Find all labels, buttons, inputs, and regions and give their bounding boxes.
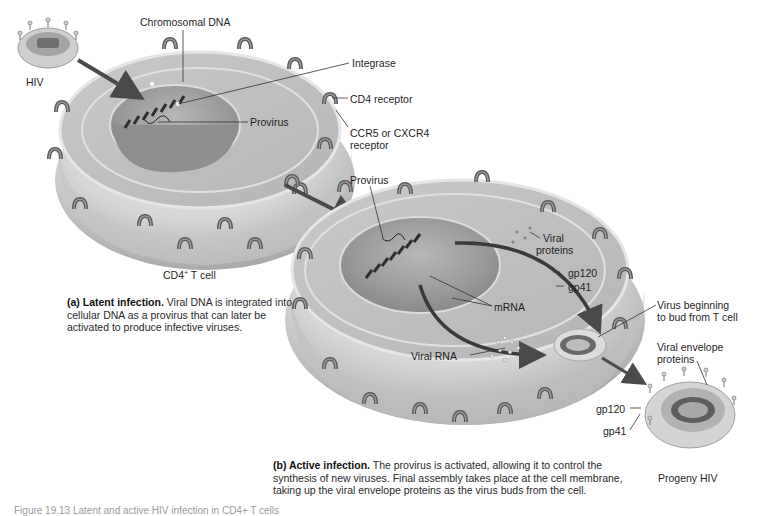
- label-viral-proteins-1: Viral: [543, 232, 564, 244]
- progeny-hiv-virion: [645, 367, 736, 448]
- label-viral-proteins-2: proteins: [536, 244, 573, 256]
- caption-latent-infection: (a) Latent infection. Viral DNA is integ…: [67, 296, 297, 334]
- label-virus-budding-2: to bud from T cell: [657, 311, 738, 323]
- label-integrase: Integrase: [352, 57, 396, 69]
- hiv-virion: [18, 18, 78, 68]
- label-ccr5-line1: CCR5 or CXCR4: [350, 127, 429, 139]
- label-ccr5-line2: receptor: [350, 139, 389, 151]
- label-progeny-gp41: gp41: [603, 425, 626, 437]
- label-progeny-gp120: gp120: [596, 403, 625, 415]
- label-viral-envelope-1: Viral envelope: [657, 341, 723, 353]
- label-cd4-receptor: CD4 receptor: [350, 93, 412, 105]
- label-viral-rna: Viral RNA: [411, 350, 457, 362]
- label-provirus-b: Provirus: [350, 174, 389, 186]
- caption-active-infection: (b) Active infection. The provirus is ac…: [273, 459, 633, 497]
- label-virus-budding-1: Virus beginning: [657, 299, 729, 311]
- label-mrna: mRNA: [494, 301, 525, 313]
- label-progeny-hiv: Progeny HIV: [658, 472, 718, 484]
- label-cd4-t-cell: CD4+ T cell: [163, 269, 216, 281]
- label-hiv: HIV: [26, 76, 44, 88]
- label-gp41: gp41: [568, 281, 591, 293]
- label-gp120: gp120: [568, 267, 597, 279]
- active-cell: [285, 172, 645, 425]
- label-chromosomal-dna: Chromosomal DNA: [140, 16, 230, 28]
- label-viral-envelope-2: proteins: [657, 353, 694, 365]
- label-provirus-a: Provirus: [250, 116, 289, 128]
- figure-title-cutoff: Figure 19.13 Latent and active HIV infec…: [14, 505, 279, 516]
